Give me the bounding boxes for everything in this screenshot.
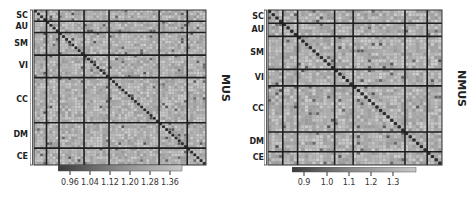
- colorbar-tick-label: 1.20: [121, 178, 139, 187]
- colorbar-tick-label: 1.04: [81, 178, 99, 187]
- colorbar-tick-label: 1.0: [321, 178, 334, 187]
- colorbar-tick-label: 0.96: [61, 178, 79, 187]
- row-label-dm: DM: [2, 131, 28, 139]
- row-label-ce: CE: [2, 153, 28, 161]
- colorbar-tick-label: 1.36: [161, 178, 179, 187]
- row-label-vi: VI: [238, 74, 264, 82]
- nmus-panel: SCAUSMVICCDMCE NMUS 0.91.01.11.21.3: [236, 0, 472, 199]
- colorbar-tick-label: 0.9: [298, 178, 311, 187]
- colorbar-tick-label: 1.28: [141, 178, 159, 187]
- row-label-cc: CC: [2, 96, 28, 104]
- row-label-au: AU: [238, 26, 264, 34]
- row-label-sm: SM: [2, 40, 28, 48]
- row-label-sc: SC: [2, 12, 28, 20]
- row-label-ce: CE: [238, 154, 264, 162]
- nmus-side-label: NMUS: [455, 70, 468, 107]
- nmus-matrix: [264, 9, 446, 169]
- mus-colorbar: [58, 165, 186, 179]
- nmus-colorbar: [292, 167, 420, 179]
- row-label-sc: SC: [238, 13, 264, 21]
- row-label-dm: DM: [238, 138, 264, 146]
- colorbar-tick-label: 1.3: [387, 178, 400, 187]
- mus-matrix: [30, 9, 210, 169]
- row-label-au: AU: [2, 23, 28, 31]
- mus-panel: SCAUSMVICCDMCE MUS 0.961.041.121.201.281…: [0, 0, 236, 199]
- row-label-cc: CC: [238, 105, 264, 113]
- colorbar-tick-label: 1.1: [343, 178, 356, 187]
- mus-side-label: MUS: [219, 74, 232, 102]
- row-label-sm: SM: [238, 49, 264, 57]
- colorbar-tick-label: 1.12: [101, 178, 119, 187]
- colorbar-tick-label: 1.2: [365, 178, 378, 187]
- row-label-vi: VI: [2, 62, 28, 70]
